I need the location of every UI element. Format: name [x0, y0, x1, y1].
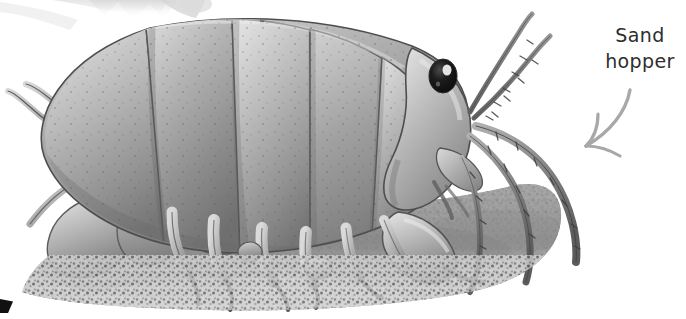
label-line-2: hopper	[596, 48, 684, 74]
sand-hopper-label: Sand hopper	[596, 22, 684, 74]
illustration-page: Sand hopper	[0, 0, 686, 319]
curved-arrow-pointing-down-left	[586, 90, 630, 156]
label-line-1: Sand	[596, 22, 684, 48]
callout-arrow-layer	[0, 0, 686, 319]
